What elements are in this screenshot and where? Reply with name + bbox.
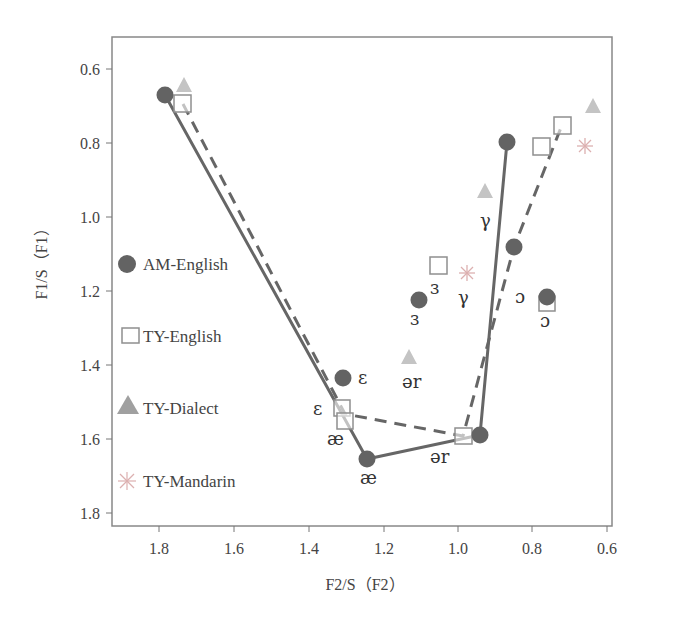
- square-icon: [430, 257, 447, 274]
- svg-text:AM-English: AM-English: [143, 255, 229, 274]
- x-tick-label: 1.4: [299, 540, 319, 557]
- vowel-label: ɜ: [410, 308, 419, 329]
- asterisk-icon: [459, 265, 475, 281]
- vowel-label: ər: [430, 446, 450, 467]
- y-axis: 0.6 0.8 1.0 1.2 1.4 1.6 1.8 F1/S（F1）: [33, 61, 112, 522]
- circle-icon: [499, 134, 516, 151]
- vowel-label: ɜ: [430, 277, 439, 298]
- vowel-label: ɔ: [515, 286, 525, 307]
- circle-icon: [539, 289, 556, 306]
- triangle-icon: [585, 98, 601, 113]
- triangle-icon: [117, 395, 139, 414]
- x-axis: 1.8 1.6 1.4 1.2 1.0 0.8 0.6 F2/S（F2）: [149, 526, 617, 593]
- ty-dialect-points: [176, 77, 601, 364]
- square-icon: [533, 138, 550, 155]
- vowel-label: ε: [358, 367, 367, 388]
- legend-item-ty-english: TY-English: [122, 327, 222, 346]
- circle-icon: [472, 427, 489, 444]
- y-tick-label: 1.6: [80, 431, 100, 448]
- x-tick-label: 0.8: [522, 540, 542, 557]
- vowel-label: æ: [327, 428, 344, 449]
- circle-icon: [359, 451, 376, 468]
- asterisk-icon: [577, 138, 593, 154]
- circle-icon: [157, 87, 174, 104]
- svg-text:TY-Mandarin: TY-Mandarin: [143, 472, 236, 491]
- x-tick-label: 0.6: [597, 540, 617, 557]
- svg-text:TY-Dialect: TY-Dialect: [143, 399, 219, 418]
- circle-icon: [335, 370, 352, 387]
- x-tick-label: 1.8: [149, 540, 169, 557]
- circle-icon: [506, 239, 523, 256]
- vowel-label: ər: [402, 371, 422, 392]
- vowel-chart: 0.6 0.8 1.0 1.2 1.4 1.6 1.8 F1/S（F1） 1.8…: [0, 0, 689, 619]
- y-tick-label: 1.2: [80, 283, 100, 300]
- square-icon: [455, 428, 472, 444]
- y-tick-label: 1.0: [80, 209, 100, 226]
- y-tick-label: 0.8: [80, 135, 100, 152]
- legend-item-ty-mandarin: TY-Mandarin: [118, 472, 236, 491]
- vowel-label: æ: [360, 467, 377, 488]
- circle-icon: [411, 292, 428, 309]
- square-icon: [554, 117, 571, 134]
- triangle-icon: [176, 77, 192, 92]
- svg-text:TY-English: TY-English: [143, 327, 222, 346]
- x-tick-label: 1.0: [448, 540, 468, 557]
- legend: AM-English TY-English TY-Dialect TY-Mand…: [117, 255, 236, 491]
- vowel-label: γ: [480, 210, 491, 231]
- asterisk-icon: [118, 472, 136, 490]
- circle-icon: [118, 255, 136, 273]
- vowel-label: ɔ: [540, 310, 550, 331]
- legend-item-am-english: AM-English: [118, 255, 229, 274]
- vowel-label: γ: [458, 287, 469, 308]
- y-tick-label: 1.4: [80, 357, 100, 374]
- triangle-icon: [477, 183, 493, 198]
- vowel-label: ε: [313, 398, 322, 419]
- square-icon: [122, 328, 139, 343]
- x-tick-label: 1.2: [374, 540, 394, 557]
- triangle-icon: [401, 349, 417, 364]
- y-tick-label: 0.6: [80, 61, 100, 78]
- square-icon: [337, 413, 353, 429]
- y-tick-label: 1.8: [80, 505, 100, 522]
- x-axis-title: F2/S（F2）: [325, 576, 404, 593]
- square-icon: [174, 95, 191, 112]
- y-axis-title: F1/S（F1）: [33, 220, 50, 299]
- legend-item-ty-dialect: TY-Dialect: [117, 395, 219, 418]
- x-tick-label: 1.6: [224, 540, 244, 557]
